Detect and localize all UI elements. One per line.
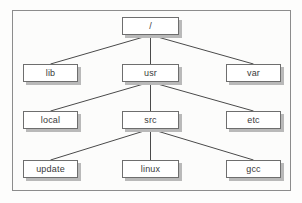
tree-node-label: update [36, 164, 65, 173]
tree-edge-usr-to-etc [151, 82, 254, 111]
tree-node-label: lib [46, 68, 56, 77]
tree-node-root[interactable]: / [122, 17, 179, 35]
tree-node-local[interactable]: local [23, 111, 78, 129]
tree-node-label: etc [247, 115, 260, 124]
tree-node-update[interactable]: update [23, 160, 78, 178]
tree-node-label: usr [144, 68, 157, 77]
tree-edge-src-to-gcc [151, 129, 254, 160]
tree-edge-src-to-update [51, 129, 151, 160]
tree-node-label: linux [141, 164, 161, 173]
tree-node-label: src [144, 115, 157, 124]
tree-node-linux[interactable]: linux [122, 160, 179, 178]
tree-node-label: local [41, 115, 61, 124]
tree-node-label: gcc [246, 164, 261, 173]
tree-node-gcc[interactable]: gcc [226, 160, 281, 178]
tree-node-lib[interactable]: lib [23, 64, 78, 82]
filesystem-tree-figure: /libusrvarlocalsrcetcupdatelinuxgcc [0, 0, 302, 203]
tree-edge-root-to-var [151, 35, 254, 64]
tree-edge-root-to-lib [51, 35, 151, 64]
tree-node-usr[interactable]: usr [122, 64, 179, 82]
tree-node-etc[interactable]: etc [226, 111, 281, 129]
tree-node-src[interactable]: src [122, 111, 179, 129]
tree-node-var[interactable]: var [226, 64, 281, 82]
tree-node-label: / [149, 21, 152, 30]
tree-node-label: var [247, 68, 260, 77]
tree-edge-usr-to-local [51, 82, 151, 111]
